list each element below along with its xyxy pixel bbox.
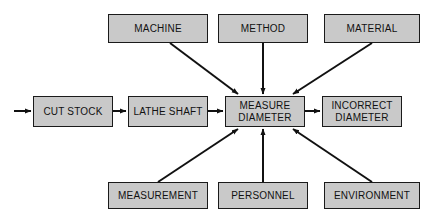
edge-machine-to-measure-diameter (170, 43, 238, 94)
node-lathe-shaft[interactable]: LATHE SHAFT (128, 96, 208, 127)
node-label-material: MATERIAL (345, 23, 400, 35)
node-measurement[interactable]: MEASUREMENT (108, 182, 208, 209)
node-environment[interactable]: ENVIRONMENT (324, 182, 420, 209)
node-label-machine: MACHINE (132, 23, 184, 35)
node-incorrect-diameter[interactable]: INCORRECT DIAMETER (322, 96, 402, 127)
fishbone-process-diagram: CUT STOCK LATHE SHAFT MEASURE DIAMETER I… (0, 0, 440, 221)
node-label-cut-stock: CUT STOCK (41, 106, 104, 118)
node-material[interactable]: MATERIAL (324, 14, 420, 43)
node-label-personnel: PERSONNEL (229, 190, 297, 202)
edge-measurement-to-measure-diameter (158, 129, 238, 182)
node-label-method: METHOD (239, 23, 288, 35)
edge-material-to-measure-diameter (293, 43, 372, 94)
node-label-lathe-shaft: LATHE SHAFT (131, 106, 204, 118)
node-measure-diameter[interactable]: MEASURE DIAMETER (225, 96, 305, 127)
node-cut-stock[interactable]: CUT STOCK (33, 96, 113, 127)
node-personnel[interactable]: PERSONNEL (218, 182, 308, 209)
node-method[interactable]: METHOD (218, 14, 308, 43)
node-label-environment: ENVIRONMENT (332, 190, 412, 202)
node-label-measurement: MEASUREMENT (116, 190, 200, 202)
edge-environment-to-measure-diameter (293, 129, 372, 182)
node-label-measure-diameter: MEASURE DIAMETER (236, 100, 293, 123)
node-machine[interactable]: MACHINE (108, 14, 208, 43)
node-label-incorrect-diameter: INCORRECT DIAMETER (329, 100, 394, 123)
